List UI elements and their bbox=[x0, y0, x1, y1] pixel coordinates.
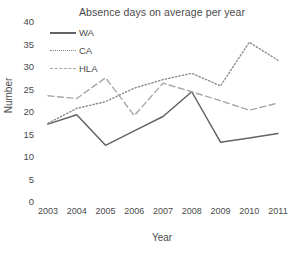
chart-legend: WACAHLA bbox=[50, 26, 120, 80]
series-line-hla bbox=[48, 78, 278, 116]
legend-item-label: WA bbox=[79, 26, 94, 40]
legend-item-hla[interactable]: HLA bbox=[50, 62, 120, 80]
legend-item-label: HLA bbox=[79, 62, 97, 76]
legend-swatch-icon bbox=[50, 50, 76, 51]
line-chart: Absence days on average per year Number … bbox=[0, 0, 290, 253]
legend-item-label: CA bbox=[79, 44, 92, 58]
legend-item-wa[interactable]: WA bbox=[50, 26, 120, 44]
legend-swatch-icon bbox=[50, 32, 76, 34]
legend-item-ca[interactable]: CA bbox=[50, 44, 120, 62]
plot-area bbox=[0, 0, 290, 253]
legend-swatch-icon bbox=[50, 68, 76, 69]
series-line-wa bbox=[48, 92, 278, 146]
